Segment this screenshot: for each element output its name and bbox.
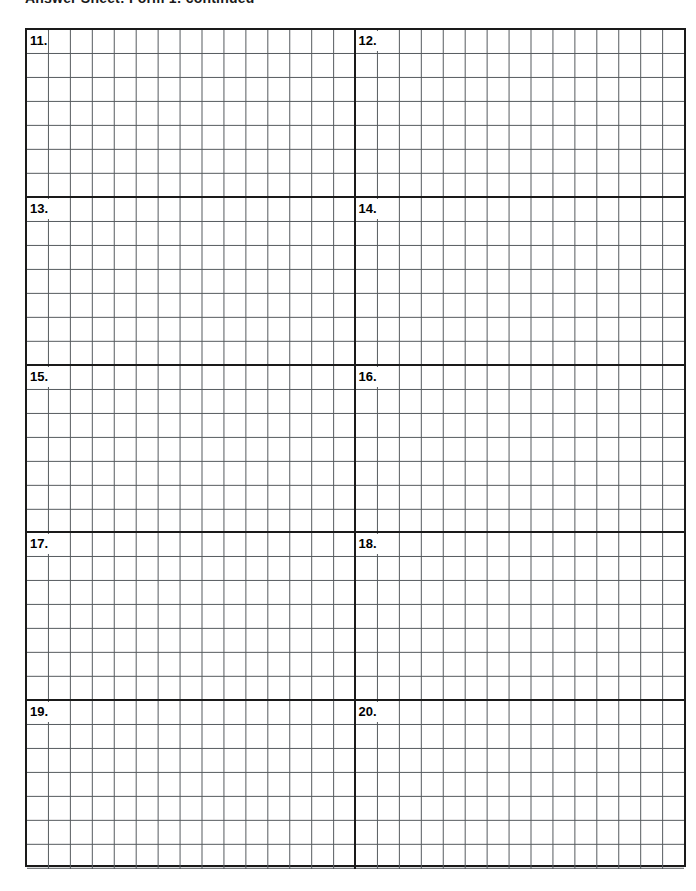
ruled-cells xyxy=(356,701,685,869)
question-block: 13. 14. xyxy=(27,198,684,366)
answer-cell-11[interactable]: 11. xyxy=(27,30,356,196)
answer-grid: 11. 12. 13. 14. 15. 16. 17. xyxy=(25,28,686,867)
ruled-cells xyxy=(27,198,354,364)
question-block: 17. 18. xyxy=(27,533,684,701)
answer-cell-19[interactable]: 19. xyxy=(27,701,356,869)
page-title-clip: Answer Sheet: Form 1: continued xyxy=(0,0,696,9)
ruled-cells xyxy=(27,366,354,532)
ruled-cells xyxy=(356,366,685,532)
ruled-cells xyxy=(27,533,354,699)
answer-cell-18[interactable]: 18. xyxy=(356,533,685,699)
question-block: 15. 16. xyxy=(27,366,684,534)
ruled-cells xyxy=(356,533,685,699)
answer-cell-15[interactable]: 15. xyxy=(27,366,356,532)
question-block: 11. 12. xyxy=(27,30,684,198)
ruled-cells xyxy=(356,30,685,196)
answer-cell-14[interactable]: 14. xyxy=(356,198,685,364)
ruled-cells xyxy=(27,30,354,196)
answer-cell-13[interactable]: 13. xyxy=(27,198,356,364)
answer-cell-12[interactable]: 12. xyxy=(356,30,685,196)
ruled-cells xyxy=(27,701,354,869)
ruled-cells xyxy=(356,198,685,364)
answer-cell-17[interactable]: 17. xyxy=(27,533,356,699)
answer-cell-16[interactable]: 16. xyxy=(356,366,685,532)
page-title: Answer Sheet: Form 1: continued xyxy=(25,0,254,6)
question-block: 19. 20. xyxy=(27,701,684,869)
answer-cell-20[interactable]: 20. xyxy=(356,701,685,869)
